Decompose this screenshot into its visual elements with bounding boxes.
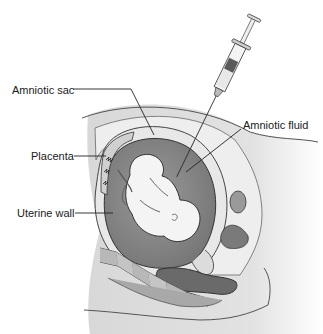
amniocentesis-illustration	[0, 0, 323, 334]
label-amniotic-fluid: Amniotic fluid	[243, 119, 308, 131]
label-placenta: Placenta	[31, 150, 74, 162]
label-uterine-wall: Uterine wall	[17, 207, 74, 219]
label-amniotic-sac: Amniotic sac	[12, 84, 74, 96]
